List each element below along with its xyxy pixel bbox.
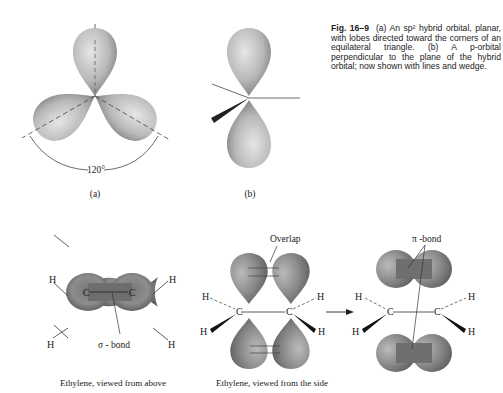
ethylene-above: C C H H H H σ - bond Ethylene, viewed fr… — [47, 235, 176, 388]
orbital-diagram: 120° (a) (b) C C H H H H σ - bond Ethyle… — [0, 0, 503, 393]
svg-text:H: H — [169, 274, 176, 285]
ethylene-pi-bond: π -bond C C H H H H — [352, 234, 475, 372]
ethylene-above-caption: Ethylene, viewed from above — [60, 378, 166, 388]
svg-text:H: H — [202, 291, 209, 302]
svg-text:H: H — [49, 274, 56, 285]
svg-text:H: H — [355, 291, 362, 302]
svg-text:H: H — [200, 326, 207, 337]
angle-label: 120° — [87, 165, 105, 175]
svg-text:H: H — [168, 339, 175, 350]
ethylene-side-porbitals: Overlap C C H H H H Ethylene, viewed fro… — [200, 234, 354, 388]
ethylene-side-caption: Ethylene, viewed from the side — [216, 378, 328, 388]
svg-text:H: H — [47, 339, 54, 350]
sigma-bond-label: σ - bond — [98, 340, 130, 350]
svg-text:C: C — [387, 306, 394, 317]
overlap-label: Overlap — [270, 234, 301, 244]
svg-text:H: H — [352, 326, 359, 337]
svg-text:H: H — [317, 291, 324, 302]
svg-text:C: C — [286, 306, 293, 317]
svg-text:C: C — [236, 306, 243, 317]
svg-text:H: H — [468, 291, 475, 302]
p-orbital: (b) — [211, 28, 300, 200]
panel-b-label: (b) — [244, 189, 255, 200]
svg-text:C: C — [83, 287, 90, 298]
svg-text:H: H — [468, 326, 475, 337]
panel-a-label: (a) — [90, 189, 101, 200]
arrow-icon — [346, 309, 354, 315]
svg-text:C: C — [434, 306, 441, 317]
svg-text:H: H — [318, 326, 325, 337]
svg-text:C: C — [129, 287, 136, 298]
pi-bond-label: π -bond — [412, 234, 442, 244]
sp2-orbital: 120° (a) — [22, 24, 170, 200]
